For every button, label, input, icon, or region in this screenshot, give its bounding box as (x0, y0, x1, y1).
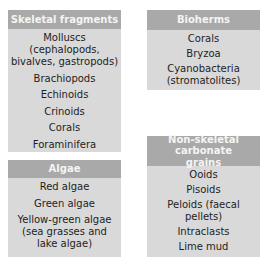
list-item: Ooids (147, 169, 260, 181)
list-item: Red algae (8, 181, 121, 193)
box-header: Skeletal fragments (8, 10, 121, 29)
list-item: Foraminifera (8, 139, 121, 151)
list-item: Intraclasts (147, 226, 260, 238)
box-header: Non-skeletal carbonate grains (147, 136, 260, 166)
list-item: Corals (147, 33, 260, 45)
list-item: Lime mud (147, 241, 260, 253)
box-header: Bioherms (147, 10, 260, 30)
list-item: Yellow-green algae (sea grasses and lake… (8, 214, 121, 250)
list-item: Crinoids (8, 106, 121, 118)
list-item: Pisoids (147, 184, 260, 196)
list-item: Corals (8, 122, 121, 134)
bioherms-box: Bioherms Corals Bryzoa Cyanobacteria (st… (147, 10, 260, 90)
list-item: Peloids (faecal pellets) (147, 199, 260, 223)
skeletal-fragments-box: Skeletal fragments Molluscs (cephalopods… (8, 10, 121, 152)
list-item: Green algae (8, 198, 121, 210)
list-item: Bryzoa (147, 48, 260, 60)
box-header: Algae (8, 160, 121, 178)
algae-box: Algae Red algae Green algae Yellow-green… (8, 160, 121, 257)
list-item: Brachiopods (8, 73, 121, 85)
list-item: Cyanobacteria (stromatolites) (147, 63, 260, 87)
non-skeletal-grains-box: Non-skeletal carbonate grains Ooids Piso… (147, 136, 260, 257)
list-item: Echinoids (8, 89, 121, 101)
list-item: Molluscs (cephalopods, bivalves, gastrop… (8, 32, 121, 68)
